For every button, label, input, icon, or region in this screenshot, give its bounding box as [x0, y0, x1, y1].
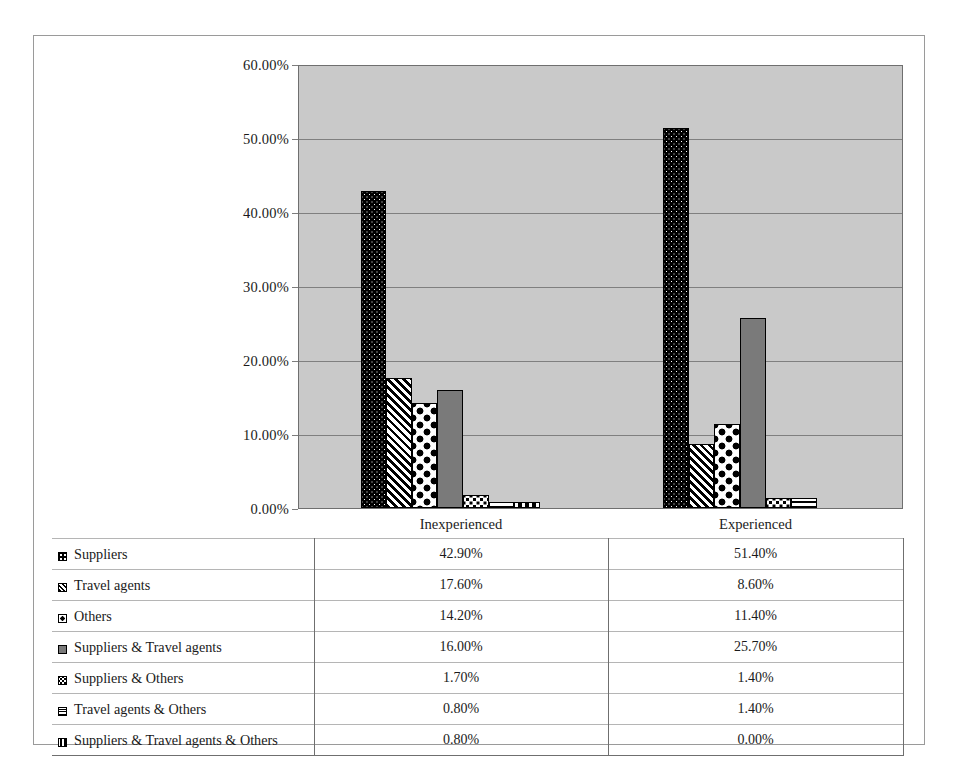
- y-axis-tick-mark: [292, 287, 298, 288]
- table-value-cell: 16.00%: [314, 632, 608, 663]
- table-row: Travel agents17.60%8.60%: [52, 570, 903, 601]
- legend-swatch-icon: [58, 738, 67, 747]
- table-row: Suppliers & Others1.70%1.40%: [52, 663, 903, 694]
- table-corner-cell: [52, 510, 314, 539]
- y-axis-tick-label: 10.00%: [243, 427, 289, 444]
- y-axis-tick-label: 40.00%: [243, 205, 289, 222]
- table-row: Suppliers & Travel agents & Others0.80%0…: [52, 725, 903, 756]
- table-value-cell: 17.60%: [314, 570, 608, 601]
- legend-label: Suppliers & Travel agents & Others: [74, 732, 278, 748]
- legend-label: Suppliers & Others: [74, 670, 184, 686]
- y-axis: 0.00%10.00%20.00%30.00%40.00%50.00%60.00…: [298, 65, 903, 510]
- legend-swatch-icon: [58, 552, 67, 561]
- chart-frame: 0.00%10.00%20.00%30.00%40.00%50.00%60.00…: [33, 35, 925, 745]
- legend-entry: Suppliers & Others: [52, 663, 314, 694]
- table-value-cell: 1.70%: [314, 663, 608, 694]
- legend-entry: Suppliers & Travel agents: [52, 632, 314, 663]
- y-axis-tick-mark: [292, 139, 298, 140]
- legend-label: Travel agents: [74, 577, 150, 593]
- legend-swatch-icon: [58, 676, 67, 685]
- y-axis-tick-mark: [292, 65, 298, 66]
- table-value-cell: 11.40%: [608, 601, 903, 632]
- legend-swatch-icon: [58, 645, 67, 654]
- table-row: Others14.20%11.40%: [52, 601, 903, 632]
- legend-entry: Travel agents: [52, 570, 314, 601]
- table-value-cell: 14.20%: [314, 601, 608, 632]
- legend-label: Travel agents & Others: [74, 701, 206, 717]
- table-value-cell: 1.40%: [608, 694, 903, 725]
- table-value-cell: 51.40%: [608, 539, 903, 570]
- legend-label: Suppliers & Travel agents: [74, 639, 222, 655]
- y-axis-tick-label: 50.00%: [243, 131, 289, 148]
- category-header: Experienced: [608, 510, 903, 539]
- legend-swatch-icon: [58, 614, 67, 623]
- y-axis-tick-mark: [292, 361, 298, 362]
- table-row: Suppliers & Travel agents16.00%25.70%: [52, 632, 903, 663]
- legend-label: Others: [74, 608, 112, 624]
- legend-swatch-icon: [58, 583, 67, 592]
- y-axis-tick-label: 60.00%: [243, 57, 289, 74]
- y-axis-tick-label: 20.00%: [243, 353, 289, 370]
- table-value-cell: 8.60%: [608, 570, 903, 601]
- plot-region: 0.00%10.00%20.00%30.00%40.00%50.00%60.00…: [298, 65, 903, 510]
- table-row: Travel agents & Others0.80%1.40%: [52, 694, 903, 725]
- y-axis-tick-mark: [292, 213, 298, 214]
- table-category-row: InexperiencedExperienced: [52, 510, 903, 539]
- y-axis-tick-label: 30.00%: [243, 279, 289, 296]
- legend-entry: Suppliers: [52, 539, 314, 570]
- table-value-cell: 25.70%: [608, 632, 903, 663]
- y-axis-tick-mark: [292, 435, 298, 436]
- table-value-cell: 0.80%: [314, 725, 608, 756]
- category-header: Inexperienced: [314, 510, 608, 539]
- table-value-cell: 1.40%: [608, 663, 903, 694]
- legend-swatch-icon: [58, 707, 67, 716]
- data-table: InexperiencedExperiencedSuppliers42.90%5…: [52, 510, 903, 756]
- legend-entry: Others: [52, 601, 314, 632]
- legend-label: Suppliers: [74, 546, 128, 562]
- table-value-cell: 42.90%: [314, 539, 608, 570]
- legend-entry: Suppliers & Travel agents & Others: [52, 725, 314, 756]
- table-row: Suppliers42.90%51.40%: [52, 539, 903, 570]
- table-value-cell: 0.00%: [608, 725, 903, 756]
- legend-entry: Travel agents & Others: [52, 694, 314, 725]
- table-value-cell: 0.80%: [314, 694, 608, 725]
